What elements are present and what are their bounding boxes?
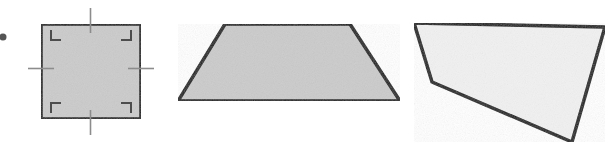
figure-container: [0, 0, 611, 150]
quadrilaterals-figure: [0, 0, 611, 150]
square-shape: [41, 24, 141, 119]
shape-group-square: [28, 8, 154, 135]
